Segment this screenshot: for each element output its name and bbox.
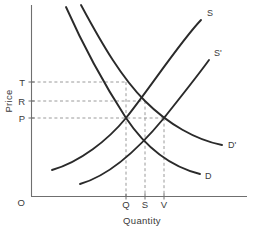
supply-demand-diagram: T R P Q S V S S' D' D O Price Quantity xyxy=(0,0,257,231)
y-tick-label-r: R xyxy=(18,96,25,107)
x-axis-tick-labels: Q S V xyxy=(122,199,168,210)
x-tick-label-v: V xyxy=(161,199,168,210)
curve-label-d-prime: D' xyxy=(228,140,236,150)
x-axis-title: Quantity xyxy=(123,215,161,226)
curves-group xyxy=(52,5,222,184)
curve-label-s: S xyxy=(207,8,213,18)
x-tick-label-q: Q xyxy=(122,199,129,210)
curve-label-s-prime: S' xyxy=(214,48,222,58)
y-axis-title: Price xyxy=(3,89,14,112)
y-tick-label-t: T xyxy=(19,77,25,88)
x-tick-label-s: S xyxy=(142,199,148,210)
origin-label: O xyxy=(18,197,25,208)
curve-demand-d xyxy=(66,7,200,174)
curve-demand-d-prime xyxy=(81,5,222,145)
plot-canvas: T R P Q S V S S' D' D O Price Quantity xyxy=(0,0,257,231)
y-tick-label-p: P xyxy=(19,113,25,124)
curve-label-d: D xyxy=(205,171,212,181)
y-axis-tick-labels: T R P xyxy=(18,77,25,124)
curve-labels-group: S S' D' D xyxy=(205,8,236,181)
